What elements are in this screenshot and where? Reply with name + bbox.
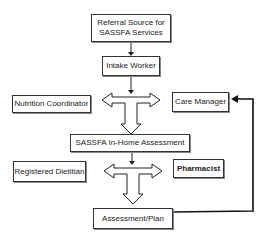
pharmacist-box: Pharmacist xyxy=(173,159,224,178)
feedback-arrow xyxy=(173,95,253,212)
nutrition-coordinator-label: Nutrition Coordinator xyxy=(15,99,89,109)
assessment-plan-label: Assessment/Plan xyxy=(102,214,164,224)
referral-label-line2: SASSFA Services xyxy=(99,28,163,38)
care-manager-label: Care Manager xyxy=(175,97,226,107)
referral-label-line1: Referral Source for xyxy=(97,18,165,28)
assessment-plan-box: Assessment/Plan xyxy=(93,208,173,229)
referral-source-box: Referral Source for SASSFA Services xyxy=(91,14,171,42)
intake-worker-label: Intake Worker xyxy=(106,61,156,71)
pharmacist-label: Pharmacist xyxy=(177,164,220,174)
t-arrow-2 xyxy=(104,164,162,204)
intake-worker-box: Intake Worker xyxy=(102,56,160,76)
t-arrow-1 xyxy=(102,93,160,134)
registered-dietitian-box: Registered Dietitian xyxy=(13,161,86,182)
in-home-assessment-box: SASSFA In-Home Assessment xyxy=(70,134,190,152)
care-manager-box: Care Manager xyxy=(172,92,229,112)
registered-dietitian-label: Registered Dietitian xyxy=(15,167,85,177)
in-home-assessment-label: SASSFA In-Home Assessment xyxy=(76,138,185,148)
nutrition-coordinator-box: Nutrition Coordinator xyxy=(12,95,91,113)
